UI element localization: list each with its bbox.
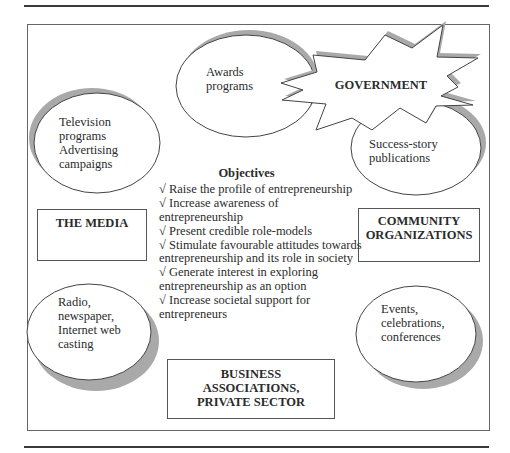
events-line: Events, (381, 302, 418, 316)
objectives-title: Objectives (159, 167, 334, 181)
awards-line: Awards (206, 65, 244, 79)
community-label-line1: COMMUNITY (359, 214, 479, 228)
radio-line: Internet web (58, 323, 121, 337)
television-line: Television (59, 115, 111, 129)
business-label-line3: PRIVATE SECTOR (168, 395, 334, 409)
objective-item: √ Increase awareness of entrepreneurship (159, 197, 364, 225)
media-box: THE MEDIA (37, 209, 147, 261)
objective-item: √ Raise the profile of entrepreneurship (159, 183, 364, 197)
media-label: THE MEDIA (38, 216, 146, 230)
government-label: GOVERNMENT (326, 78, 436, 92)
business-box: BUSINESS ASSOCIATIONS, PRIVATE SECTOR (167, 359, 335, 419)
television-line: campaigns (59, 157, 112, 171)
awards-line: programs (206, 79, 253, 93)
objectives-panel: Objectives √ Raise the profile of entrep… (159, 167, 364, 322)
objective-item: √ Increase societal support for entrepre… (159, 294, 364, 322)
business-label-line2: ASSOCIATIONS, (168, 381, 334, 395)
events-line: conferences (381, 330, 441, 344)
success-story-line: publications (369, 151, 430, 165)
objective-item: √ Present credible role-models (159, 225, 364, 239)
radio-line: newspaper, (58, 309, 114, 323)
objective-item: √ Generate interest in exploring entrepr… (159, 266, 364, 294)
business-label-line1: BUSINESS (168, 367, 334, 381)
community-label-line2: ORGANIZATIONS (359, 228, 479, 242)
objective-item: √ Stimulate favourable attitudes towards… (159, 239, 364, 267)
events-line: celebrations, (381, 316, 445, 330)
television-line: Advertising (59, 143, 118, 157)
radio-line: casting (58, 337, 93, 351)
success-story-line: Success-story (369, 137, 438, 151)
television-line: programs (59, 129, 106, 143)
radio-line: Radio, (58, 295, 91, 309)
community-box: COMMUNITY ORGANIZATIONS (358, 208, 480, 262)
